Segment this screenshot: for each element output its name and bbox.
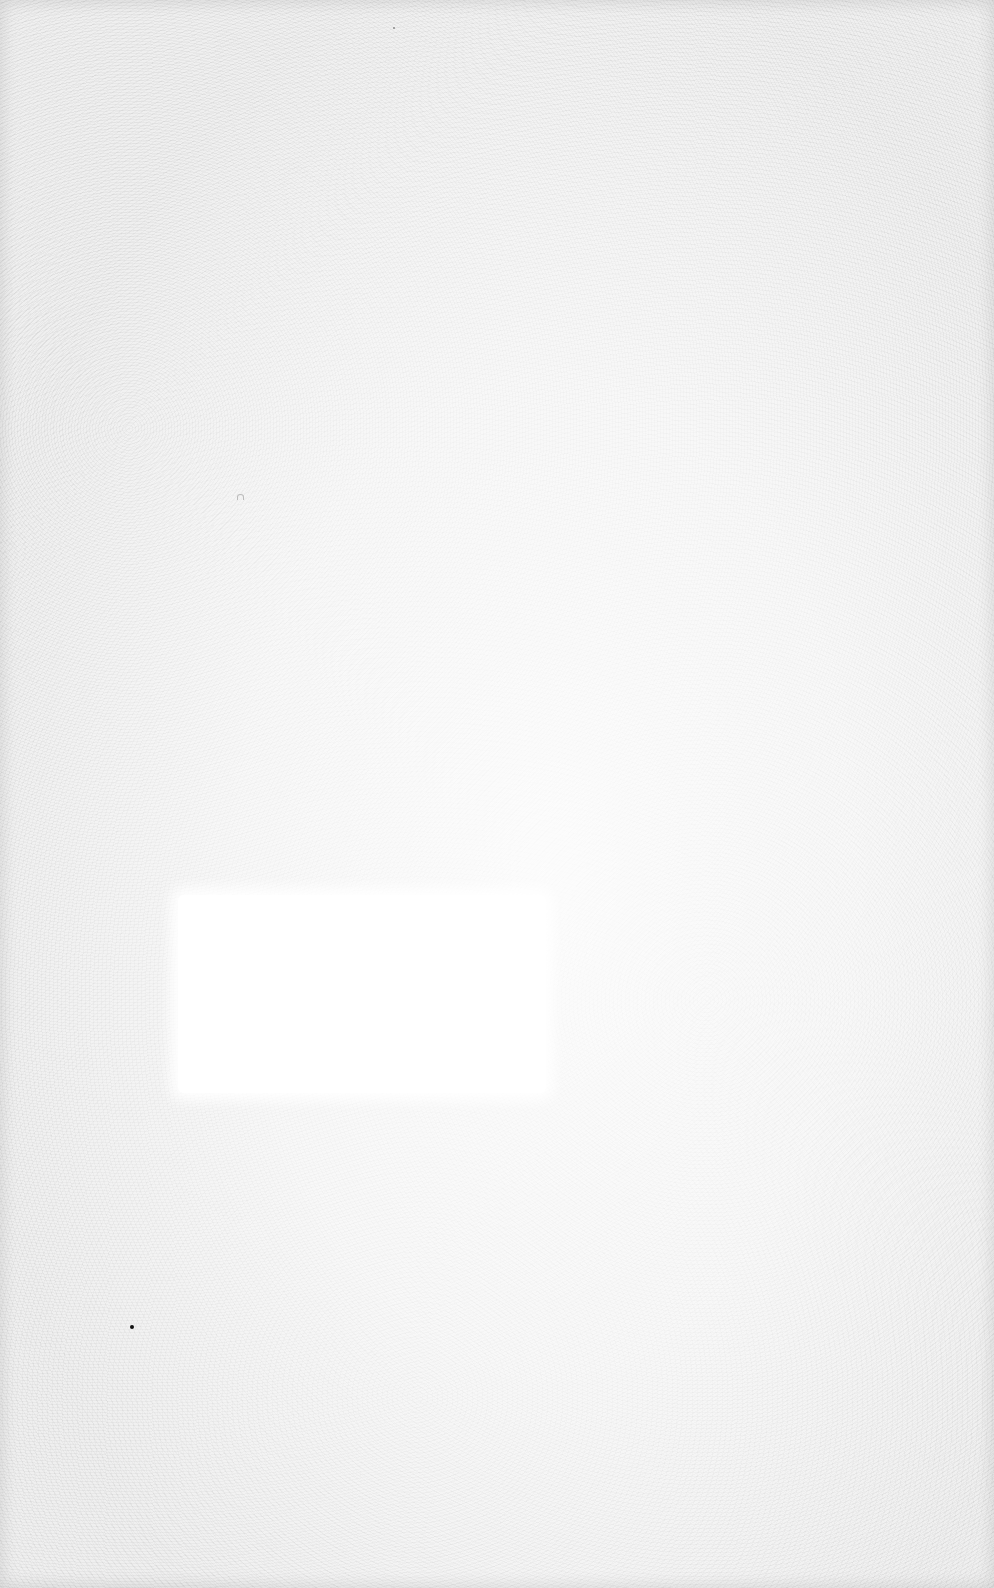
ink-dot [130,1325,134,1329]
blank-white-patch [178,895,546,1093]
paper-speck [393,27,395,29]
scanned-page [0,0,994,1588]
page-edge-shadow [0,0,994,1588]
paper-speck [237,494,244,500]
